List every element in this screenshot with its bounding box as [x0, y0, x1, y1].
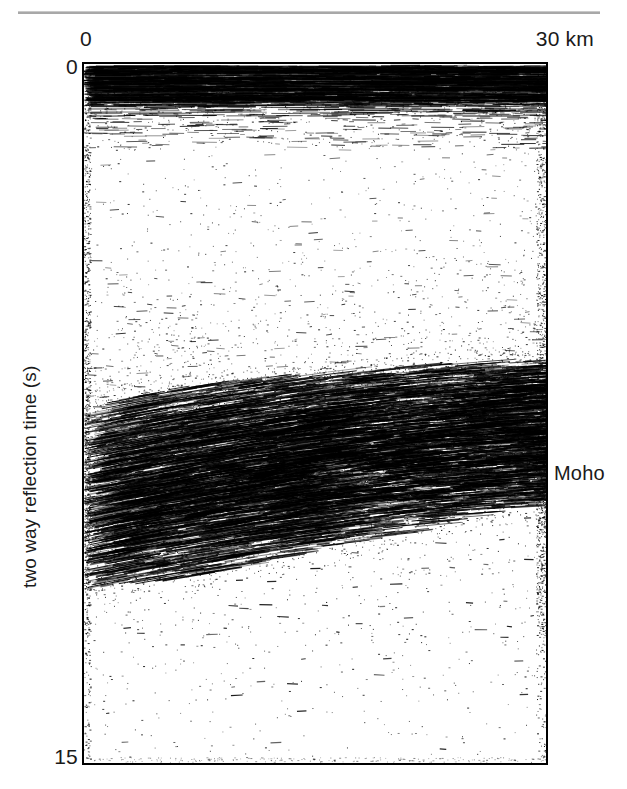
y-axis-top-tick-label: 0 — [56, 56, 78, 77]
seismic-section-panel — [82, 62, 548, 765]
x-axis-left-tick-label: 0 — [80, 28, 92, 49]
moho-annotation-label: Moho — [554, 463, 605, 483]
header-divider — [18, 11, 600, 14]
x-axis-right-tick-label: 30 km — [536, 28, 594, 49]
seismic-section-canvas — [84, 64, 546, 763]
y-axis-title: two way reflection time (s) — [18, 258, 42, 588]
seismic-figure: 0 30 km 0 15 two way reflection time (s)… — [0, 0, 627, 789]
y-axis-bottom-tick-label: 15 — [48, 746, 78, 767]
